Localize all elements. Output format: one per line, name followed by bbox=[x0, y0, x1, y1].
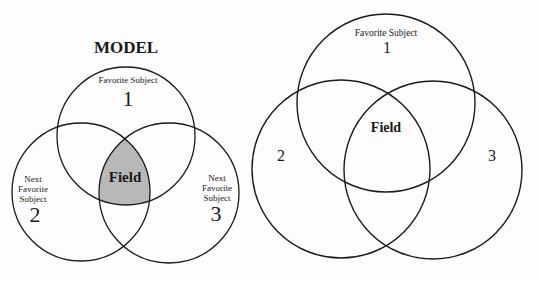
circle2-label-line2: Favorite bbox=[18, 184, 48, 194]
circle1-label: Favorite Subject bbox=[98, 75, 158, 85]
venn-diagrams: MODEL Favorite Subject 1 Next Favorite S… bbox=[0, 0, 538, 281]
circle2-number: 2 bbox=[30, 202, 41, 227]
right-circle1-number: 1 bbox=[383, 39, 391, 56]
circle3-label-line1: Next bbox=[208, 173, 226, 183]
model-title: MODEL bbox=[94, 38, 158, 57]
circle2-label-line1: Next bbox=[24, 174, 42, 184]
right-circle3-number: 3 bbox=[488, 147, 496, 164]
field-label: Field bbox=[109, 169, 142, 185]
circle-3 bbox=[344, 81, 522, 259]
circle1-number: 1 bbox=[123, 86, 134, 111]
circle-2 bbox=[252, 80, 430, 258]
right-field-label: Field bbox=[371, 120, 402, 135]
right-circle1-label: Favorite Subject bbox=[355, 28, 418, 38]
circle3-label-line2: Favorite bbox=[202, 183, 232, 193]
model-diagram: MODEL Favorite Subject 1 Next Favorite S… bbox=[12, 38, 239, 263]
right-circle2-number: 2 bbox=[277, 147, 285, 164]
right-diagram: Favorite Subject 1 2 3 Field bbox=[252, 14, 522, 259]
circle3-number: 3 bbox=[211, 201, 222, 226]
